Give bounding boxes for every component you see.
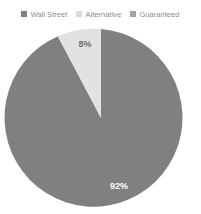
pie-slice-label-wall-street: 92%	[110, 181, 128, 191]
pie-slice-label-alternative: 8%	[78, 39, 91, 49]
pie-chart-container: Wall Street Alternative Guaranteed 8% 92…	[0, 0, 201, 214]
pie-svg: 8% 92%	[0, 0, 201, 214]
pie-plot-area: 8% 92%	[0, 0, 201, 214]
